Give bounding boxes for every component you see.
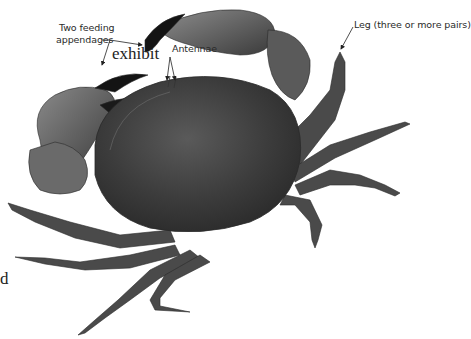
label-line: Two feeding	[56, 22, 115, 34]
label-antennae: Antennae	[172, 43, 217, 55]
label-leg: Leg (three or more pairs)	[354, 19, 471, 31]
label-line: appendages	[56, 34, 115, 46]
label-feeding-appendages: Two feeding appendages	[56, 22, 115, 46]
carapace	[95, 77, 301, 232]
